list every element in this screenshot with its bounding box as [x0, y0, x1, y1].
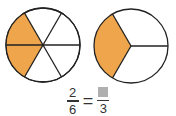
right-circle-thirds	[94, 9, 168, 83]
fraction-circles	[0, 0, 176, 86]
equals-sign: =	[83, 92, 94, 110]
left-numerator: 2	[69, 86, 76, 99]
left-circle-sixths	[6, 8, 80, 82]
left-denominator: 6	[69, 103, 76, 116]
right-fraction: 3	[97, 87, 109, 116]
fraction-equation: 2 6 = 3	[0, 86, 176, 116]
left-fraction: 2 6	[67, 86, 79, 116]
answer-placeholder-box[interactable]	[98, 87, 108, 97]
right-denominator: 3	[100, 102, 107, 115]
